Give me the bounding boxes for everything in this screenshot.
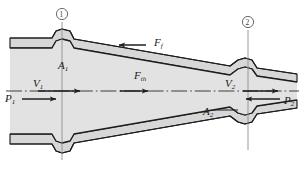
station-1-number: 1 — [60, 11, 64, 19]
duct-schematic-svg — [0, 0, 303, 173]
area-1-label: A1 — [58, 60, 68, 73]
thrust-force-label: Fth — [134, 70, 146, 83]
pressure-2-label: P2 — [284, 95, 294, 108]
station-2-number: 2 — [246, 19, 250, 27]
pressure-1-label: P1 — [5, 93, 15, 106]
velocity-1-label: V1 — [33, 78, 43, 91]
area-2-label: A2 — [203, 106, 213, 119]
velocity-2-label: V2 — [225, 78, 235, 91]
figure-canvas: 1 2 A1 A2 V1 V2 P1 P2 Ff Fth — [0, 0, 303, 173]
station-circles — [56, 8, 253, 27]
friction-force-label: Ff — [154, 37, 163, 50]
